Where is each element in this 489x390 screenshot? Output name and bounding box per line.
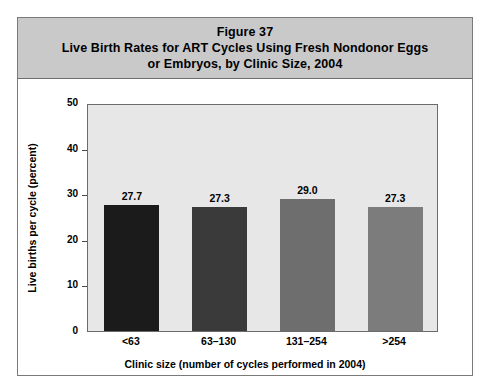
bar[interactable]: 29.0: [280, 199, 335, 331]
x-axis-tick-labels: <6363–130131–254>254: [87, 335, 438, 351]
y-axis-tick-label: 30: [67, 188, 78, 199]
y-axis-tick-label: 20: [67, 234, 78, 245]
y-axis-tick-label: 0: [72, 325, 78, 336]
bar[interactable]: 27.3: [368, 207, 423, 331]
bar[interactable]: 27.7: [104, 205, 159, 331]
figure-header: Figure 37 Live Birth Rates for ART Cycle…: [18, 18, 472, 79]
figure-container: Figure 37 Live Birth Rates for ART Cycle…: [17, 17, 473, 376]
y-axis-ticks: 01020304050: [18, 104, 87, 332]
x-axis-tick-label: 63–130: [175, 335, 263, 347]
bar-value-label: 27.3: [385, 192, 405, 204]
figure-title-line-1: Live Birth Rates for ART Cycles Using Fr…: [62, 40, 428, 56]
figure-title-line-2: or Embryos, by Clinic Size, 2004: [148, 56, 343, 72]
bar[interactable]: 27.3: [192, 207, 247, 331]
x-axis-tick-label: 131–254: [263, 335, 351, 347]
bar-value-label: 29.0: [297, 184, 317, 196]
plot-area: 27.727.329.027.3: [87, 104, 438, 332]
y-axis-tick-label: 40: [67, 143, 78, 154]
figure-number: Figure 37: [217, 24, 273, 40]
chart-body: Live births per cycle (percent) 01020304…: [18, 79, 472, 375]
y-axis-tick-label: 50: [67, 97, 78, 108]
bar-value-label: 27.3: [209, 192, 229, 204]
x-axis-title: Clinic size (number of cycles performed …: [18, 358, 472, 370]
x-axis-tick-label: >254: [350, 335, 438, 347]
x-axis-tick-label: <63: [87, 335, 175, 347]
bar-value-label: 27.7: [122, 190, 142, 202]
y-axis-tick-label: 10: [67, 279, 78, 290]
